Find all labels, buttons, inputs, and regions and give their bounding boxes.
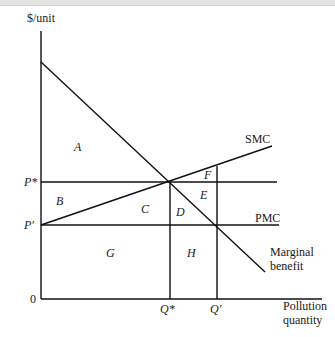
area-f-label: F	[203, 168, 212, 182]
marginal-benefit-curve	[41, 62, 265, 272]
marginal-benefit-label-line1: Marginal	[270, 245, 314, 259]
pmc-label: PMC	[255, 211, 280, 225]
pollution-diagram: $/unit 0 Pollution quantity P* P′ Q* Q′ …	[0, 0, 335, 337]
area-b-label: B	[56, 194, 64, 208]
area-a-label: A	[73, 140, 82, 154]
area-e-label: E	[199, 188, 208, 202]
smc-curve	[41, 146, 272, 225]
x-axis-label-line1: Pollution	[283, 299, 327, 313]
origin-label: 0	[30, 292, 36, 306]
area-c-label: C	[141, 202, 150, 216]
p-star-label: P*	[23, 175, 37, 189]
area-d-label: D	[175, 205, 185, 219]
y-axis-label: $/unit	[27, 11, 56, 25]
q-star-label: Q*	[160, 302, 175, 316]
smc-label: SMC	[245, 132, 270, 146]
p-prime-label: P′	[23, 218, 34, 232]
area-g-label: G	[106, 246, 115, 260]
marginal-benefit-label-line2: benefit	[270, 259, 304, 273]
q-prime-label: Q′	[210, 302, 222, 316]
area-h-label: H	[186, 246, 197, 260]
x-axis-label-line2: quantity	[283, 313, 322, 327]
